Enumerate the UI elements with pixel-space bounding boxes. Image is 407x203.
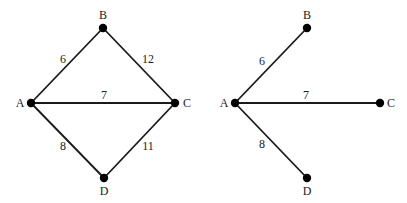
node-label-b: B xyxy=(303,8,311,22)
edge-a-d xyxy=(235,103,307,178)
node-c-dot-icon xyxy=(376,99,384,107)
original-graph: 6127811ABCD xyxy=(16,8,191,198)
node-b-dot-icon xyxy=(303,24,311,32)
node-a-dot-icon xyxy=(27,99,35,107)
edge-b-c xyxy=(103,28,175,103)
node-b-dot-icon xyxy=(99,24,107,32)
edge-weight-label: 6 xyxy=(259,54,265,68)
node-label-a: A xyxy=(220,96,229,110)
node-label-a: A xyxy=(16,96,25,110)
node-label-d: D xyxy=(303,184,312,198)
edge-weight-label: 8 xyxy=(60,139,66,153)
edge-c-d xyxy=(104,103,175,178)
edge-a-b xyxy=(31,28,103,103)
node-label-b: B xyxy=(99,8,107,22)
shortest-path-tree: 678ABCD xyxy=(220,8,395,198)
node-label-c: C xyxy=(387,96,395,110)
edge-weight-label: 12 xyxy=(142,52,154,66)
node-c-dot-icon xyxy=(171,99,179,107)
node-d-dot-icon xyxy=(100,174,108,182)
graph-diagram: 6127811ABCD 678ABCD xyxy=(0,0,407,203)
edge-weight-label: 11 xyxy=(142,139,154,153)
edge-weight-label: 6 xyxy=(60,52,66,66)
node-d-dot-icon xyxy=(303,174,311,182)
edge-weight-label: 8 xyxy=(259,137,265,151)
node-a-dot-icon xyxy=(231,99,239,107)
node-label-d: D xyxy=(100,184,109,198)
edge-weight-label: 7 xyxy=(303,88,309,102)
node-label-c: C xyxy=(183,96,191,110)
edge-a-d xyxy=(31,103,104,178)
edge-a-b xyxy=(235,28,307,103)
edge-weight-label: 7 xyxy=(101,88,107,102)
